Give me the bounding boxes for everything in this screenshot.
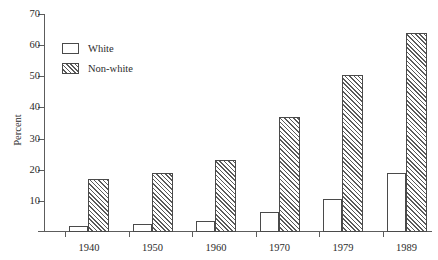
y-tick-label: 10: [30, 196, 41, 207]
legend-item-non-white: Non-white: [62, 60, 133, 76]
x-tick-label-1979: 1979: [333, 242, 354, 253]
bar-white-1960: [196, 221, 215, 232]
bar-non-white-1950: [152, 173, 173, 232]
bar-white-1950: [133, 224, 152, 232]
bar-white-1970: [260, 212, 279, 232]
y-tick-label: 30: [30, 133, 41, 144]
y-tick-label: 40: [30, 102, 41, 113]
x-tick-label-1989: 1989: [396, 242, 417, 253]
x-tick-mark-1950: [129, 232, 130, 237]
x-tick-label-1950: 1950: [142, 242, 163, 253]
bar-white-1979: [323, 199, 342, 232]
bar-non-white-1970: [279, 117, 300, 232]
legend-swatch-non-white: [62, 63, 79, 74]
chart-legend: White Non-white: [62, 40, 133, 80]
y-axis-line: [44, 14, 45, 232]
legend-item-white: White: [62, 40, 133, 56]
x-tick-mark-1979: [319, 232, 320, 237]
bar-non-white-1979: [342, 75, 363, 232]
bar-white-1989: [387, 173, 406, 232]
x-tick-mark-1960: [192, 232, 193, 237]
y-tick-label: 50: [30, 71, 41, 82]
legend-swatch-white: [62, 43, 79, 54]
legend-label-non-white: Non-white: [88, 63, 133, 74]
y-tick-label: 20: [30, 164, 41, 175]
x-tick-label-1940: 1940: [79, 242, 100, 253]
bar-non-white-1940: [88, 179, 109, 232]
x-tick-mark-1970: [256, 232, 257, 237]
x-tick-label-1970: 1970: [269, 242, 290, 253]
x-tick-mark-1989: [383, 232, 384, 237]
y-axis-title: Percent: [12, 114, 23, 146]
y-tick-label: 70: [30, 9, 41, 20]
bar-non-white-1960: [215, 160, 236, 232]
y-tick-label: 60: [30, 40, 41, 51]
bar-white-1940: [69, 226, 88, 232]
bar-chart: 10203040506070 194019501960197019791989 …: [0, 0, 438, 260]
legend-label-white: White: [88, 43, 114, 54]
x-tick-label-1960: 1960: [206, 242, 227, 253]
x-tick-mark-1940: [65, 232, 66, 237]
bar-non-white-1989: [406, 33, 427, 232]
